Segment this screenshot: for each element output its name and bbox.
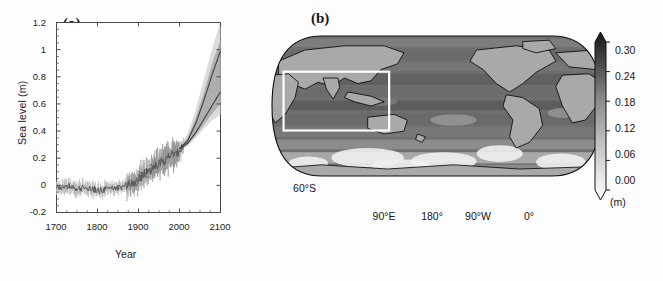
world-map-svg [262, 0, 663, 281]
tide-gauge-point [129, 188, 131, 190]
sea-level-zonal-band [272, 140, 602, 150]
panel-b-regional-map: (b) 60°N 30°N 0° 30°S 60°S 90°E 180° 90°… [262, 0, 663, 281]
sea-level-zonal-band [272, 100, 602, 110]
colorbar-gradient [595, 32, 606, 200]
figure-container: (a) Sea level (m) Year 1.2 1 0.8 0.6 0.4… [0, 0, 663, 281]
tide-gauge-point [128, 179, 130, 181]
sea-level-plot-svg [0, 0, 262, 281]
sea-level-zonal-band [272, 127, 602, 137]
anomaly-patch [430, 114, 476, 125]
colorbar-layer [595, 32, 610, 200]
sea-level-zonal-band [272, 88, 602, 98]
panel-a-sea-level-timeseries: (a) Sea level (m) Year 1.2 1 0.8 0.6 0.4… [0, 0, 262, 281]
